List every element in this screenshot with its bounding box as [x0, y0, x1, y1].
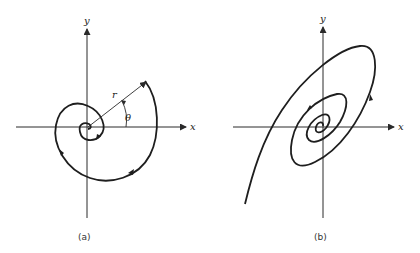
radius-label: r — [112, 89, 118, 100]
caption-a: (a) — [78, 232, 91, 242]
direction-arrow-icon — [128, 169, 134, 175]
x-axis-label: x — [398, 121, 404, 132]
panel-b: x y (b) — [233, 13, 404, 242]
radius-vector — [88, 82, 146, 127]
caption-b: (b) — [314, 232, 327, 242]
spiral-curve — [55, 81, 157, 181]
y-axis-label: y — [319, 13, 326, 24]
elliptic-spiral-curve — [245, 46, 375, 204]
angle-label: θ — [125, 112, 131, 123]
x-axis-label: x — [190, 121, 196, 132]
figure: x y r θ (a) x y (b) — [0, 0, 420, 253]
y-axis-label: y — [83, 15, 90, 26]
panel-a: x y r θ (a) — [16, 15, 196, 242]
